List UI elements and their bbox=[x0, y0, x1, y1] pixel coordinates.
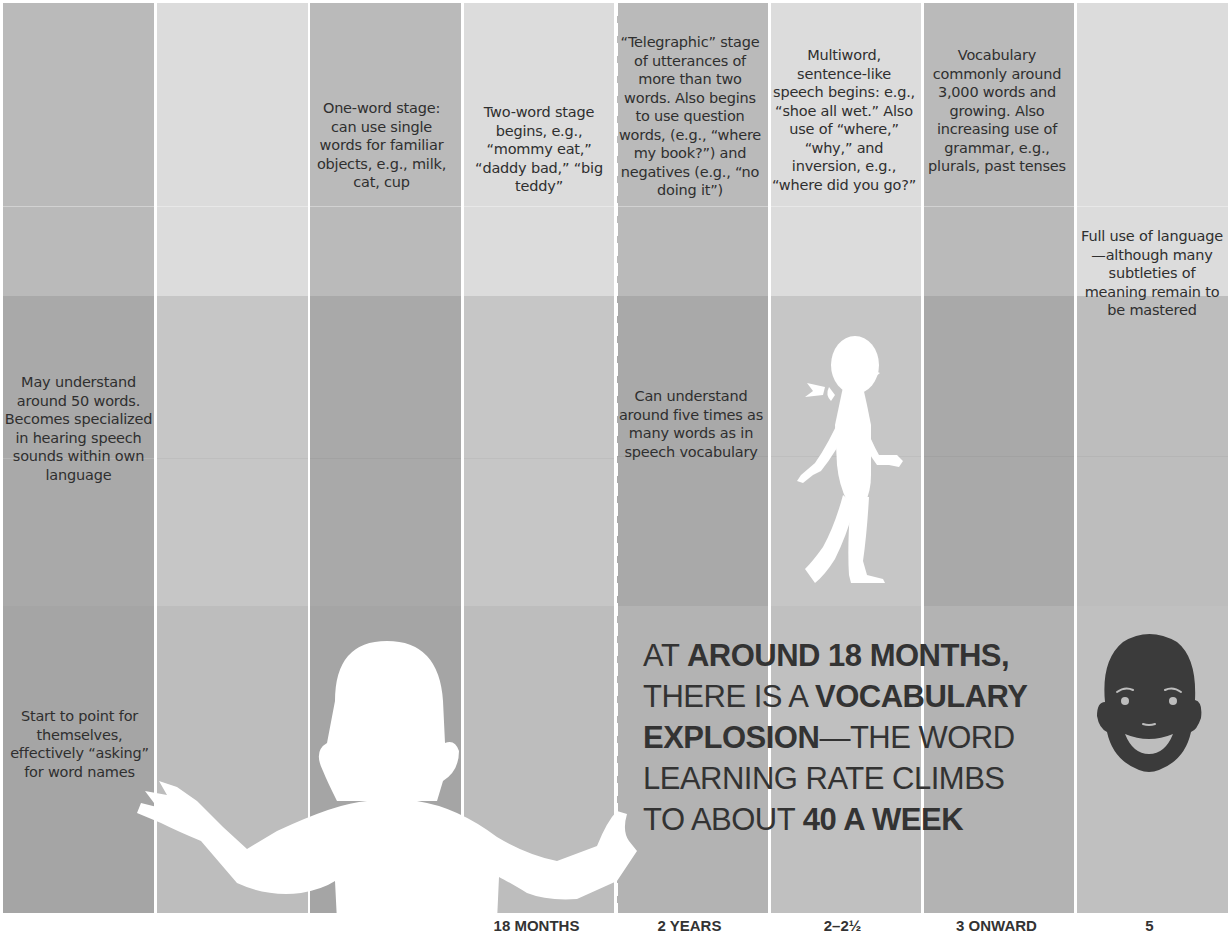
headline-bold: 40 a week bbox=[803, 802, 963, 837]
speech-vocabulary-3000: Vocabulary commonly around 3,000 words a… bbox=[924, 46, 1070, 176]
age-label-3-onward: 3 ONWARD bbox=[920, 917, 1073, 934]
speech-full-use-of-language: Full use of language—although many subtl… bbox=[1079, 227, 1225, 320]
band-understanding bbox=[924, 296, 1074, 606]
band-understanding bbox=[1077, 296, 1228, 606]
headline-text: learning rate climbs bbox=[643, 761, 1005, 796]
baby-silhouette-icon bbox=[137, 631, 637, 921]
speech-telegraphic-stage: “Telegraphic” stage of utterances of mor… bbox=[615, 33, 765, 200]
age-label-2-to-2-half: 2–2½ bbox=[766, 917, 919, 934]
band-understanding bbox=[464, 296, 614, 606]
speech-two-word-stage: Two-word stage begins, e.g., “mommy eat,… bbox=[466, 103, 612, 196]
headline-text: —the word bbox=[819, 720, 1014, 755]
smiling-child-face-icon bbox=[1093, 630, 1205, 775]
speech-one-word-stage: One-word stage: can use single words for… bbox=[310, 99, 453, 192]
understanding-five-times: Can understand around five times as many… bbox=[615, 387, 767, 461]
age-axis: 18 MONTHS 2 YEARS 2–2½ 3 ONWARD 5 bbox=[0, 917, 1230, 935]
headline-text: there is a bbox=[643, 679, 815, 714]
age-label-2-years: 2 YEARS bbox=[613, 917, 766, 934]
vocabulary-explosion-headline: At around 18 months, there is a vocabula… bbox=[643, 635, 1073, 840]
headline-bold: explosion bbox=[643, 720, 819, 755]
eighteen-months-divider bbox=[615, 3, 618, 915]
headline-text: At bbox=[643, 638, 687, 673]
headline-text: to about bbox=[643, 802, 803, 837]
band-understanding bbox=[157, 296, 308, 606]
age-label-5: 5 bbox=[1073, 917, 1226, 934]
column-7 bbox=[1077, 3, 1228, 913]
band-speech bbox=[157, 3, 308, 296]
language-development-grid: One-word stage: can use single words for… bbox=[3, 3, 1228, 913]
understanding-50-words: May understand around 50 words. Becomes … bbox=[3, 373, 154, 484]
band-understanding bbox=[310, 296, 461, 606]
gesture-pointing: Start to point for themselves, effective… bbox=[3, 707, 156, 781]
band-speech bbox=[3, 3, 154, 296]
age-label-18-months: 18 MONTHS bbox=[460, 917, 613, 934]
headline-bold: vocabulary bbox=[815, 679, 1028, 714]
speech-multiword-stage: Multiword, sentence-like speech begins: … bbox=[771, 46, 917, 194]
walking-girl-silhouette-icon bbox=[785, 325, 915, 585]
headline-bold: around 18 months, bbox=[687, 638, 1009, 673]
